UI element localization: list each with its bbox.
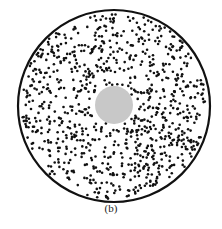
particle-diagram xyxy=(0,0,222,229)
figure-caption: (b) xyxy=(0,202,222,214)
central-gray-disk xyxy=(95,86,133,124)
